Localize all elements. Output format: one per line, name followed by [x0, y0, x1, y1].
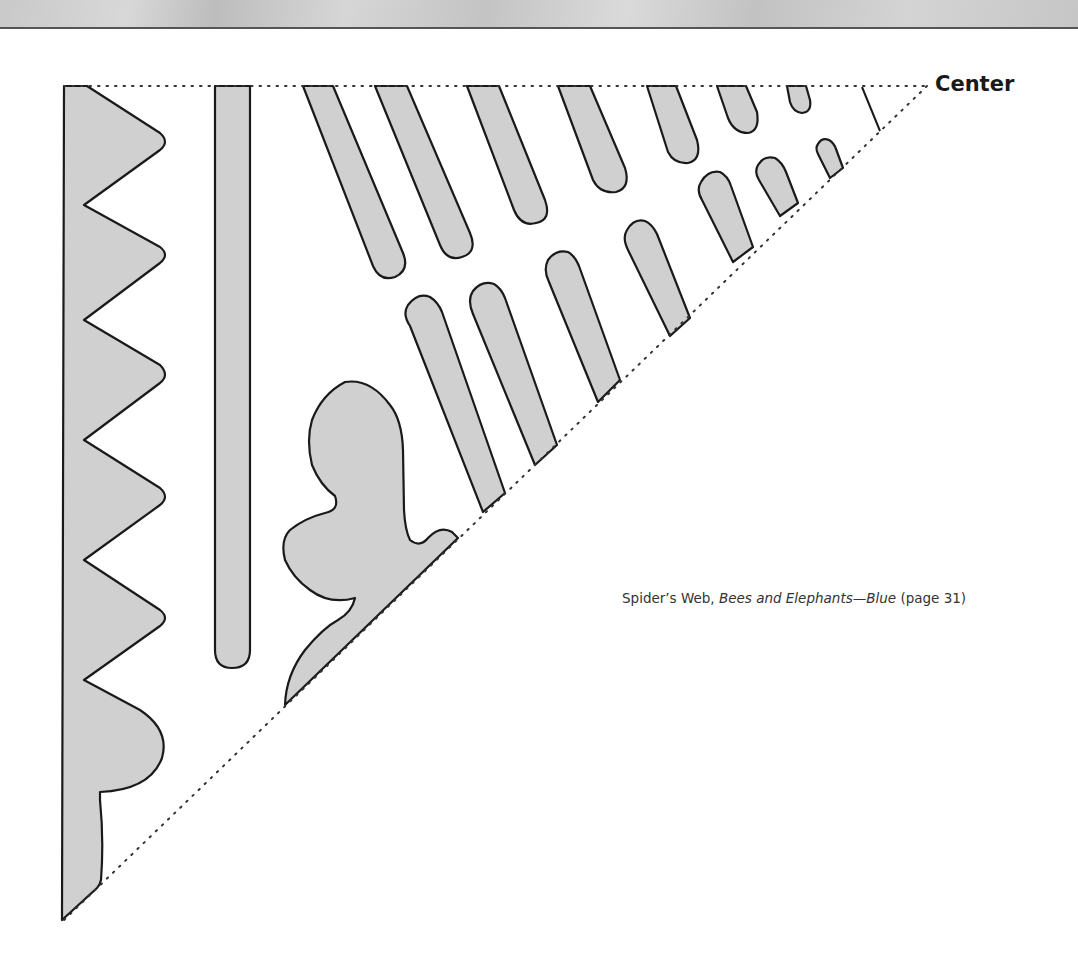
- stripe-bottom-5: [699, 172, 753, 262]
- diagonal-fold-line: [62, 86, 927, 922]
- stripe-bottom-3: [546, 251, 620, 402]
- stripe-bottom-4: [625, 220, 690, 336]
- vertical-bar-cutout: [215, 86, 250, 668]
- center-label: Center: [935, 72, 1014, 96]
- caption-prefix: Spider’s Web,: [622, 590, 719, 606]
- stripe-top-6: [717, 86, 758, 133]
- stripe-top-7: [787, 86, 810, 113]
- caption-title: Bees and Elephants—Blue: [719, 590, 896, 606]
- stripe-top-5: [647, 86, 698, 163]
- cutting-template-diagram: [0, 0, 1078, 974]
- stripe-top-3: [467, 86, 547, 224]
- figure-caption: Spider’s Web, Bees and Elephants—Blue (p…: [622, 590, 966, 606]
- left-zigzag-cutout: [62, 86, 165, 920]
- stripe-bottom-7: [817, 139, 844, 178]
- stripe-top-4: [558, 86, 627, 192]
- center-cut-line: [862, 87, 880, 131]
- caption-suffix: (page 31): [896, 590, 966, 606]
- blob-cutout: [283, 381, 458, 705]
- stripe-bottom-6: [756, 157, 798, 216]
